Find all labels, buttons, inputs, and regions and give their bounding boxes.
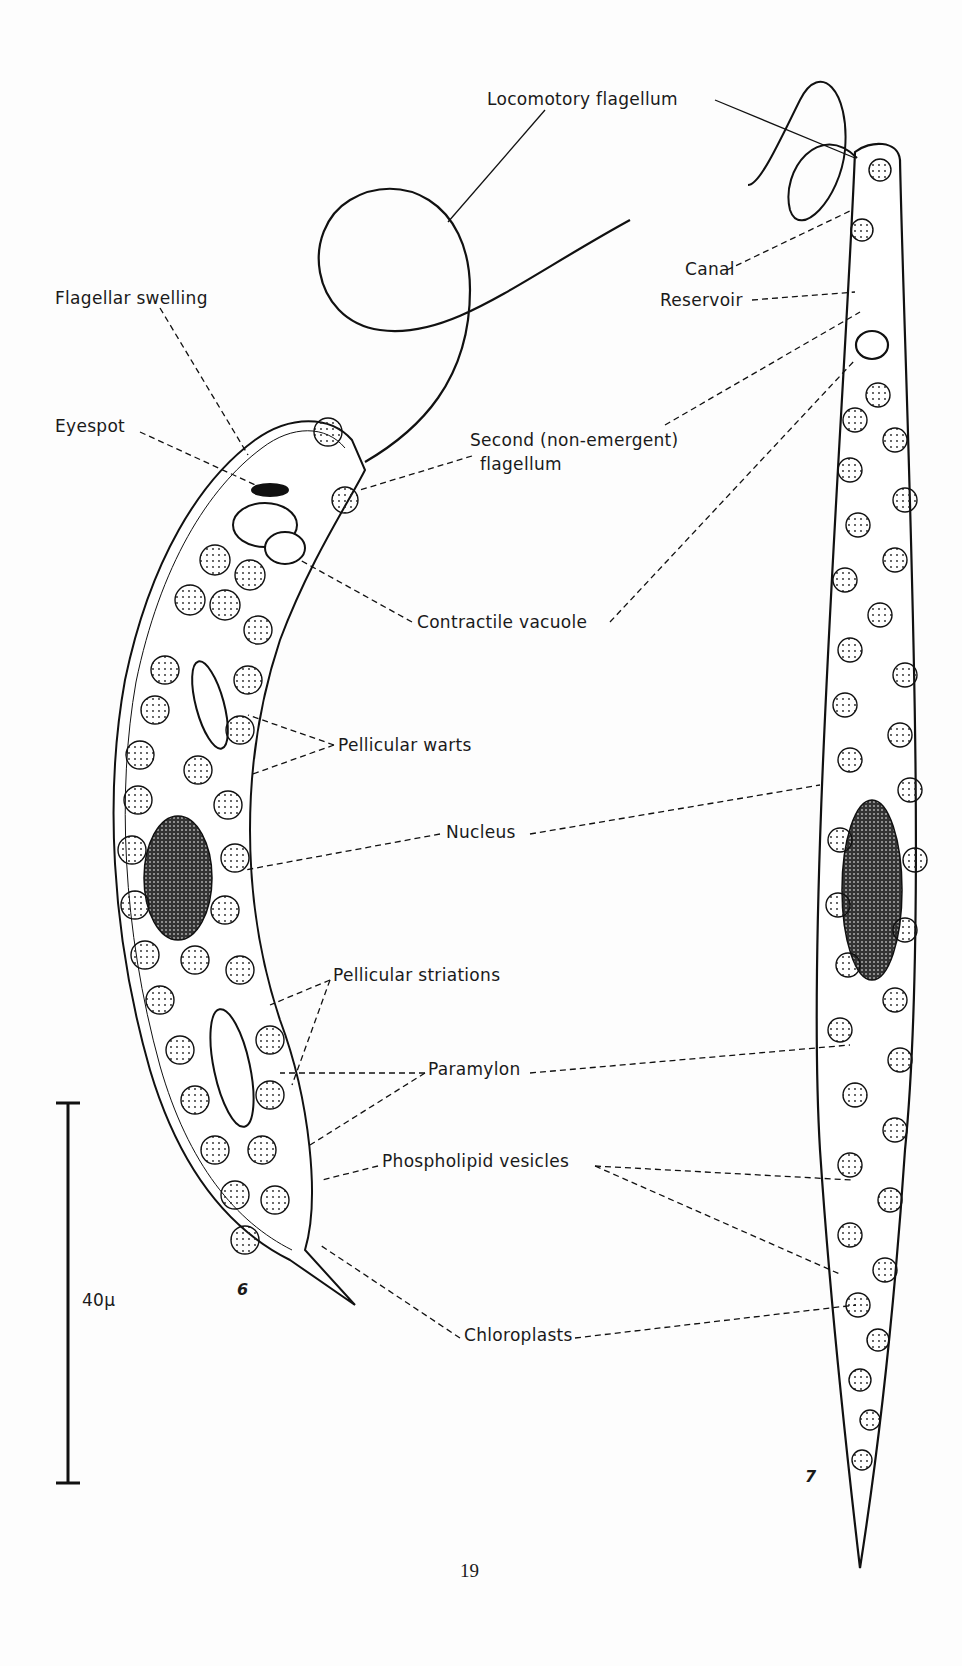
label-flagellar-swelling: Flagellar swelling <box>55 290 208 307</box>
label-contractile-vacuole: Contractile vacuole <box>417 614 587 631</box>
label-paramylon: Paramylon <box>428 1061 521 1078</box>
label-canal: Canal <box>685 261 735 278</box>
label-phospholipid-vesicles: Phospholipid vesicles <box>382 1153 569 1170</box>
label-chloroplasts: Chloroplasts <box>464 1327 573 1344</box>
label-pellicular-striations: Pellicular striations <box>333 967 500 984</box>
scale-bar <box>56 1103 80 1483</box>
figure-7-cell <box>748 82 927 1568</box>
label-eyespot: Eyespot <box>55 418 125 435</box>
label-pellicular-warts: Pellicular warts <box>338 737 472 754</box>
label-reservoir: Reservoir <box>660 292 743 309</box>
page-number: 19 <box>460 1560 479 1582</box>
figure-number-7: 7 <box>805 1467 816 1486</box>
label-nucleus: Nucleus <box>446 824 516 841</box>
scale-bar-label: 40μ <box>82 1292 115 1309</box>
figure-number-6: 6 <box>237 1280 248 1299</box>
label-second-flagellum-line2: flagellum <box>480 456 562 473</box>
label-locomotory-flagellum: Locomotory flagellum <box>487 91 678 108</box>
label-second-flagellum-line1: Second (non-emergent) <box>470 432 678 449</box>
